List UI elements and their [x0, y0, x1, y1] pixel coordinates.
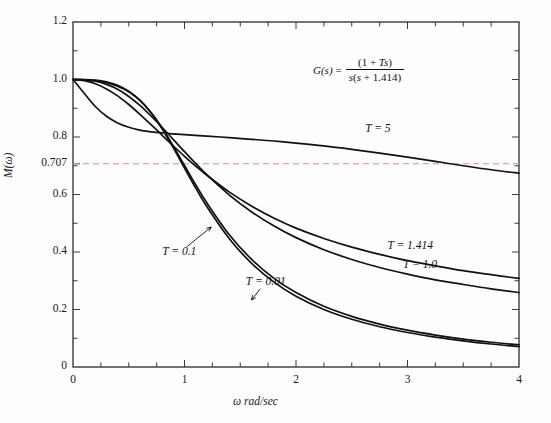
chart-background: [0, 0, 551, 423]
curve-label: T = 0.1: [162, 245, 196, 257]
x-tick-label: 2: [286, 373, 306, 385]
y-tick-label: 0.4: [25, 244, 67, 256]
y-tick-label: 0.707: [25, 156, 67, 168]
y-tick-label: 0.6: [25, 187, 67, 199]
frequency-response-chart: [0, 0, 551, 423]
x-tick-label: 4: [509, 373, 529, 385]
transfer-function-lhs: G(s): [313, 64, 333, 76]
y-tick-label: 0: [25, 359, 67, 371]
y-tick-label: 1.0: [25, 72, 67, 84]
curve-label: T = 1.0: [403, 258, 437, 270]
curve-label: T = 1.414: [387, 239, 433, 251]
x-tick-label: 3: [398, 373, 418, 385]
x-tick-label: 0: [63, 373, 83, 385]
x-axis-title: ω rad/sec: [233, 395, 278, 407]
y-axis-title: M(ω): [2, 153, 14, 178]
denominator: s(s + 1.414): [346, 69, 404, 83]
y-tick-label: 0.2: [25, 302, 67, 314]
numerator: (1 + Ts): [355, 56, 395, 69]
y-tick-label: 1.2: [25, 14, 67, 26]
transfer-function-annotation: G(s) = (1 + Ts) s(s + 1.414): [313, 56, 404, 83]
equals-sign: =: [336, 64, 342, 76]
y-tick-label: 0.8: [25, 129, 67, 141]
curve-label: T = 0.01: [246, 275, 286, 287]
x-tick-label: 1: [175, 373, 195, 385]
transfer-function-fraction: (1 + Ts) s(s + 1.414): [346, 56, 404, 83]
curve-label: T = 5: [365, 122, 390, 134]
